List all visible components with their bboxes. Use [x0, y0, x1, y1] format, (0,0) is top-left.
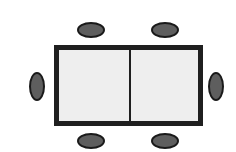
chair-left: [29, 72, 45, 101]
chair-top-right: [151, 22, 179, 38]
chair-bottom-left: [77, 133, 105, 149]
chair-top-left: [77, 22, 105, 38]
table: [54, 45, 203, 126]
table-section-right: [131, 50, 198, 121]
chair-right: [208, 72, 224, 101]
table-section-left: [59, 50, 129, 121]
chair-bottom-right: [151, 133, 179, 149]
